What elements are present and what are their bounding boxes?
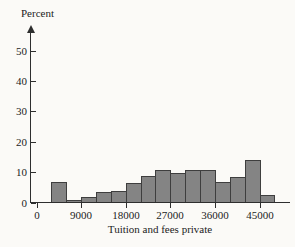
y-tick (31, 81, 36, 82)
x-tick (215, 203, 216, 208)
histogram-bar (170, 173, 186, 203)
histogram-bar (245, 160, 261, 203)
x-axis-line (30, 202, 290, 203)
x-tick-label: 36000 (193, 209, 237, 222)
y-tick (31, 142, 36, 143)
x-tick (126, 203, 127, 208)
histogram-bar (185, 170, 201, 203)
y-axis-title: Percent (21, 7, 54, 20)
y-axis-arrowhead-icon (27, 25, 35, 33)
histogram-bar (51, 182, 67, 203)
x-tick (37, 203, 38, 208)
x-tick-label: 0 (15, 209, 59, 222)
x-tick-label: 9000 (59, 209, 103, 222)
histogram-bar (155, 170, 171, 203)
histogram-bar (215, 182, 231, 203)
y-tick-label: 20 (4, 136, 27, 149)
y-tick (31, 203, 36, 204)
histogram-bar (126, 183, 142, 203)
y-tick-label: 50 (4, 45, 27, 58)
y-tick-label: 30 (4, 105, 27, 118)
x-tick-label: 27000 (148, 209, 192, 222)
y-tick (31, 172, 36, 173)
histogram-figure: Percent Tuition and fees private 0102030… (0, 0, 295, 247)
histogram-bar (141, 176, 156, 203)
histogram-bar (230, 177, 246, 203)
x-axis-title: Tuition and fees private (30, 223, 290, 236)
y-tick (31, 51, 36, 52)
y-tick (31, 111, 36, 112)
x-tick-label: 45000 (238, 209, 282, 222)
x-tick (170, 203, 171, 208)
x-tick (260, 203, 261, 208)
histogram-bar (200, 170, 216, 203)
y-tick-label: 40 (4, 75, 27, 88)
x-tick-label: 18000 (104, 209, 148, 222)
x-tick (81, 203, 82, 208)
y-axis-line (30, 33, 31, 203)
y-tick-label: 10 (4, 166, 27, 179)
